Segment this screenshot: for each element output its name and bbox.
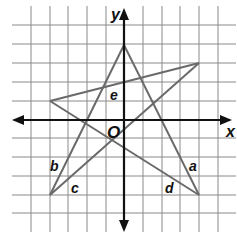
label-c: c — [71, 180, 79, 196]
x-axis-label: x — [225, 123, 236, 140]
y-axis-down-arrow-icon — [119, 220, 129, 232]
origin-label: O — [107, 123, 120, 142]
y-axis-label: y — [110, 6, 121, 23]
label-a: a — [189, 158, 197, 174]
coordinate-plane-diagram: y x O e a b c d — [0, 0, 237, 238]
x-axis-left-arrow-icon — [12, 115, 24, 125]
label-d: d — [165, 180, 174, 196]
label-b: b — [50, 158, 59, 174]
label-e: e — [110, 87, 118, 103]
y-axis-up-arrow-icon — [119, 8, 129, 20]
